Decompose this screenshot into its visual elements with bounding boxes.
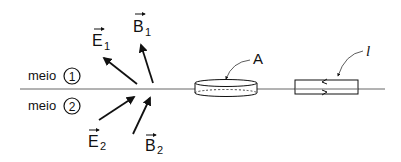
svg-text:meio: meio [28,68,56,83]
svg-text:E: E [92,32,103,49]
svg-text:E: E [88,133,99,150]
pillbox-surface-icon [195,80,257,97]
svg-text:2: 2 [69,100,76,114]
boundary-conditions-diagram: meio 1 meio 2 E 1 B 1 E 2 B 2 [0,0,401,162]
b1-arrow-icon [141,45,153,83]
svg-text:B: B [133,18,144,35]
e1-label: E 1 [92,29,110,52]
svg-text:1: 1 [69,70,76,84]
loop-pointer-arrow-icon [338,51,363,76]
b1-label: B 1 [133,14,151,38]
medium-1-label: meio 1 [28,68,80,84]
e2-label: E 2 [88,130,106,152]
surface-pointer-arrow-icon [226,60,250,79]
medium-2-label: meio 2 [28,98,80,114]
svg-text:2: 2 [100,140,106,152]
loop-label: l [366,43,370,59]
e1-arrow-icon [104,58,137,84]
e2-arrow-icon [99,97,134,120]
diagram-canvas: meio 1 meio 2 E 1 B 1 E 2 B 2 [0,0,401,162]
b2-label: B 2 [145,135,163,156]
b2-arrow-icon [133,98,150,134]
svg-text:1: 1 [104,40,110,52]
surface-label: A [253,50,263,67]
rectangular-loop-icon [295,79,358,95]
svg-text:2: 2 [157,144,163,156]
svg-text:1: 1 [145,26,151,38]
svg-text:B: B [145,137,156,154]
svg-text:meio: meio [28,98,56,113]
